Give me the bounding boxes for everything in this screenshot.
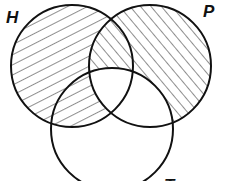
label-t: T: [164, 176, 176, 181]
venn-diagram: H P T: [0, 0, 244, 181]
label-p: P: [203, 2, 215, 21]
label-h: H: [6, 8, 19, 27]
